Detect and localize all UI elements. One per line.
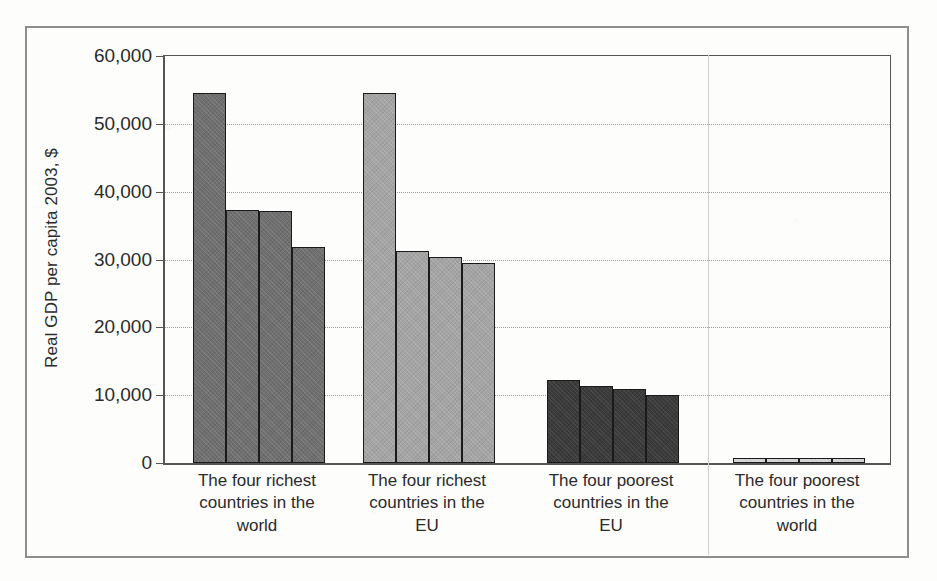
category-label-line: countries in the [165,492,349,514]
category-label-line: The four poorest [519,470,703,492]
category-label-line: countries in the [519,492,703,514]
y-tick-label: 40,000 [94,181,152,203]
bar-chart: Real GDP per capita 2003, $ 60,00050,000… [0,0,937,581]
category-label-line: world [705,515,889,537]
bar [226,210,259,463]
bar [193,93,226,463]
x-axis-category-label: The four richestcountries in theworld [165,470,349,537]
y-tick-mark [156,463,165,464]
bar [462,263,495,463]
y-tick-label: 20,000 [94,316,152,338]
bar [396,251,429,463]
bar [733,458,766,463]
bar [547,380,580,463]
y-tick-mark [156,192,165,193]
bar [646,395,679,463]
y-tick-mark [156,327,165,328]
bar [292,247,325,463]
category-label-line: EU [335,515,519,537]
bar [832,458,865,463]
y-tick-label: 60,000 [94,45,152,67]
category-label-line: The four richest [165,470,349,492]
category-label-line: countries in the [705,492,889,514]
gridline [165,124,890,125]
y-tick-mark [156,56,165,57]
category-label-line: world [165,515,349,537]
bar [613,389,646,463]
plot-area: 60,00050,00040,00030,00020,00010,0000 [163,55,891,465]
y-tick-mark [156,124,165,125]
y-tick-mark [156,395,165,396]
x-axis-category-label: The four poorestcountries in theEU [519,470,703,537]
category-label-line: countries in the [335,492,519,514]
gridline [165,192,890,193]
y-tick-label: 50,000 [94,113,152,135]
y-axis-title: Real GDP per capita 2003, $ [42,58,62,458]
bar [363,93,396,463]
bar [766,458,799,463]
y-tick-label: 10,000 [94,384,152,406]
category-label-line: The four richest [335,470,519,492]
category-label-line: EU [519,515,703,537]
y-tick-label: 30,000 [94,249,152,271]
bar [429,257,462,463]
y-tick-label: 0 [141,452,152,474]
category-label-line: The four poorest [705,470,889,492]
bar [799,458,832,463]
bar [580,386,613,463]
bar [259,211,292,463]
x-axis-category-label: The four richestcountries in theEU [335,470,519,537]
y-tick-mark [156,260,165,261]
x-axis-category-label: The four poorestcountries in theworld [705,470,889,537]
